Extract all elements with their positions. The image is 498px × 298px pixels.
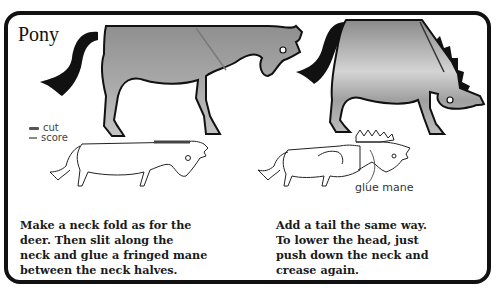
page-title: Pony [18,23,59,46]
instruction-line: Add a tail the same way. [276,218,496,233]
instruction-line: Make a neck fold as for the [20,218,240,233]
instruction-line: deer. Then slit along the [20,233,240,248]
legend-label-score: score [41,133,68,143]
cut-line-swatch [29,127,39,130]
eye-icon [280,47,286,53]
instruction-line: To lower the head, just [276,233,496,248]
legend: cut score [29,123,68,143]
instructions-right: Add a tail the same way. To lower the he… [276,218,496,278]
instruction-line: crease again. [276,263,496,278]
instruction-line: push down the neck and [276,248,496,263]
score-line-swatch [29,137,37,139]
instructions-left: Make a neck fold as for the deer. Then s… [20,218,240,278]
pony-standing [40,26,302,136]
glue-mane-label: glue mane [355,181,413,194]
pattern-diagram-2 [258,130,410,186]
pony-grazing [296,20,484,134]
legend-item-score: score [29,133,68,143]
instruction-line: neck and glue a fringed mane [20,248,240,263]
eye-icon [447,97,453,103]
instruction-line: between the neck halves. [20,263,240,278]
pattern-diagram-1 [50,141,208,186]
